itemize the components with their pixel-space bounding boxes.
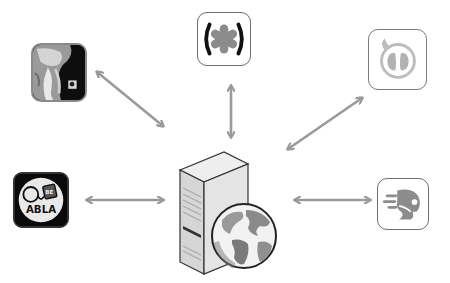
arrow-xray-server — [97, 72, 163, 126]
globe-icon — [212, 204, 276, 268]
svg-text:BE: BE — [45, 189, 53, 195]
abla-label: ABLA — [26, 204, 56, 215]
neck-xray-icon — [33, 45, 85, 100]
abla-icon: BE ABLA — [15, 174, 67, 226]
arrow-lungs-server — [288, 98, 362, 149]
xray-app-node[interactable] — [31, 43, 87, 102]
central-server[interactable] — [172, 148, 284, 278]
web-server-icon — [172, 148, 284, 278]
asterisk-in-parentheses-icon — [198, 13, 250, 65]
speed-app-node[interactable] — [377, 178, 429, 230]
lungs-speech-bubble-icon — [369, 30, 426, 89]
asterisk-app-node[interactable] — [197, 12, 251, 66]
speeding-face-icon — [378, 179, 428, 229]
lungs-app-node[interactable] — [368, 29, 427, 90]
abla-app-node[interactable]: BE ABLA — [13, 172, 69, 228]
